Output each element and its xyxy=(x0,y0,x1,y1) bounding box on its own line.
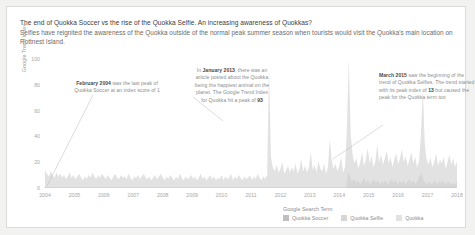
y-axis-label: Google Trend Index xyxy=(21,9,27,87)
annotation-3-bold: March 2015 xyxy=(379,72,407,78)
annotation-february-2004: February 2004 was the last peak of Quokk… xyxy=(71,80,163,95)
page-title: The end of Quokka Soccer vs the rise of … xyxy=(20,19,450,28)
y-axis-tick: 100 xyxy=(31,56,40,62)
x-axis-tick: 2018 xyxy=(451,192,463,198)
legend: Google Search Term Quokka SoccerQuokka S… xyxy=(283,206,423,221)
y-axis-tick: 60 xyxy=(34,108,40,114)
page-subtitle: Selfies have reignited the awareness of … xyxy=(20,29,454,47)
annotation-2-bold2: 93 xyxy=(257,97,263,103)
x-axis-tick: 2005 xyxy=(69,192,81,198)
y-axis-tick: 20 xyxy=(34,159,40,165)
annotation-january-2013: In January 2013, there was an article po… xyxy=(193,67,271,104)
legend-label: Quokka xyxy=(405,215,423,221)
chart-card: The end of Quokka Soccer vs the rise of … xyxy=(6,6,466,228)
x-axis-tick: 2006 xyxy=(98,192,110,198)
legend-swatch-icon xyxy=(341,215,347,221)
legend-title: Google Search Term xyxy=(283,206,423,212)
annotation-1-bold: February 2004 xyxy=(76,80,111,86)
x-axis-tick: 2017 xyxy=(422,192,434,198)
legend-label: Quokka Selfie xyxy=(350,215,383,221)
legend-item[interactable]: Quokka Selfie xyxy=(341,215,383,221)
legend-item[interactable]: Quokka Soccer xyxy=(283,215,328,221)
annotation-march-2015: March 2015 saw the beginning of the tren… xyxy=(379,72,475,102)
annotation-2-bold: January 2013 xyxy=(202,67,235,73)
x-axis-tick: 2009 xyxy=(186,192,198,198)
legend-label: Quokka Soccer xyxy=(292,215,328,221)
y-axis-tick: 0 xyxy=(37,185,40,191)
x-axis-tick: 2015 xyxy=(363,192,375,198)
x-axis-tick: 2010 xyxy=(216,192,228,198)
legend-swatch-icon xyxy=(396,215,402,221)
legend-items: Quokka SoccerQuokka SelfieQuokka xyxy=(283,215,423,221)
y-axis-tick: 80 xyxy=(34,82,40,88)
x-axis-tick: 2004 xyxy=(39,192,51,198)
x-axis-tick: 2011 xyxy=(245,192,256,198)
x-axis-tick: 2013 xyxy=(304,192,316,198)
x-axis-tick: 2012 xyxy=(275,192,287,198)
legend-item[interactable]: Quokka xyxy=(396,215,423,221)
x-axis-tick: 2007 xyxy=(128,192,140,198)
leader-line-2004 xyxy=(47,95,93,186)
x-axis-tick: 2008 xyxy=(157,192,169,198)
y-axis-tick: 40 xyxy=(34,133,40,139)
x-axis-tick: 2014 xyxy=(334,192,346,198)
leader-line-2015 xyxy=(333,125,383,159)
x-axis-tick: 2016 xyxy=(392,192,404,198)
legend-swatch-icon xyxy=(283,215,289,221)
